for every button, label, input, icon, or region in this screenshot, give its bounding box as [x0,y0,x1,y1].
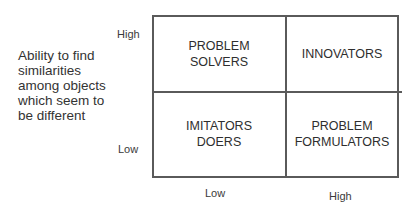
y-tick-high: High [117,28,140,40]
y-axis-label: Ability to find similarities among objec… [18,48,118,123]
quadrant-problem-formulators: PROBLEM FORMULATORS [287,92,397,176]
quadrant-problem-solvers: PROBLEM SOLVERS [153,16,285,91]
quadrant-innovators: INNOVATORS [287,16,397,91]
x-tick-low: Low [205,187,225,199]
quadrant-imitators-doers: IMITATORS DOERS [153,92,285,176]
grid-border-bottom [152,176,399,178]
y-tick-low: Low [118,143,138,155]
x-tick-high: High [329,190,352,202]
grid-border-right [397,15,399,177]
